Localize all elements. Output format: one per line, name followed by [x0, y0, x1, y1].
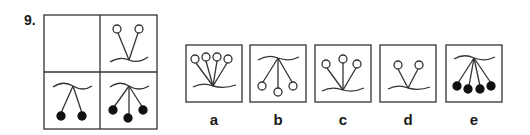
option-b-label[interactable]: b	[250, 111, 306, 128]
option-b-figure[interactable]	[250, 45, 306, 102]
matrix-cell-bottom-left	[53, 83, 92, 120]
option-a-figure[interactable]	[186, 45, 242, 102]
option-d-label[interactable]: d	[380, 111, 436, 128]
option-c-label[interactable]: c	[315, 111, 371, 128]
option-e-label[interactable]: e	[446, 111, 502, 128]
option-c-figure[interactable]	[315, 45, 371, 102]
matrix-cell-bottom-right	[109, 83, 149, 122]
option-e-figure[interactable]	[446, 45, 502, 102]
option-a-label[interactable]: a	[186, 111, 242, 128]
matrix-cell-top-right	[110, 25, 148, 62]
option-d-figure[interactable]	[380, 45, 436, 102]
